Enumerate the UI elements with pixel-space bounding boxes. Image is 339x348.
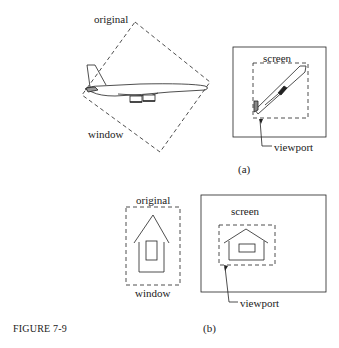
viewport-a-pointer bbox=[260, 120, 272, 146]
screen-b-box bbox=[201, 195, 326, 292]
original-label-b: original bbox=[136, 194, 170, 206]
viewport-b-pointer bbox=[225, 267, 238, 302]
part-b-tag: (b) bbox=[203, 322, 216, 334]
window-label-b: window bbox=[135, 287, 170, 299]
window-b-dashed bbox=[126, 207, 180, 285]
original-label-a: original bbox=[94, 13, 128, 25]
figure-caption: FIGURE 7-9 bbox=[13, 323, 67, 335]
airplane-icon bbox=[85, 65, 208, 102]
house-original-icon bbox=[134, 215, 169, 272]
part-a-tag: (a) bbox=[238, 163, 250, 175]
viewport-label-b: viewport bbox=[240, 297, 279, 309]
screen-label-a: screen bbox=[263, 52, 291, 64]
airplane-viewport-icon bbox=[254, 66, 306, 114]
house-viewport-icon bbox=[224, 229, 268, 260]
viewport-label-a: viewport bbox=[274, 141, 313, 153]
viewport-b-dashed bbox=[219, 225, 275, 265]
window-label-a: window bbox=[88, 128, 123, 140]
screen-label-b: screen bbox=[231, 205, 259, 217]
